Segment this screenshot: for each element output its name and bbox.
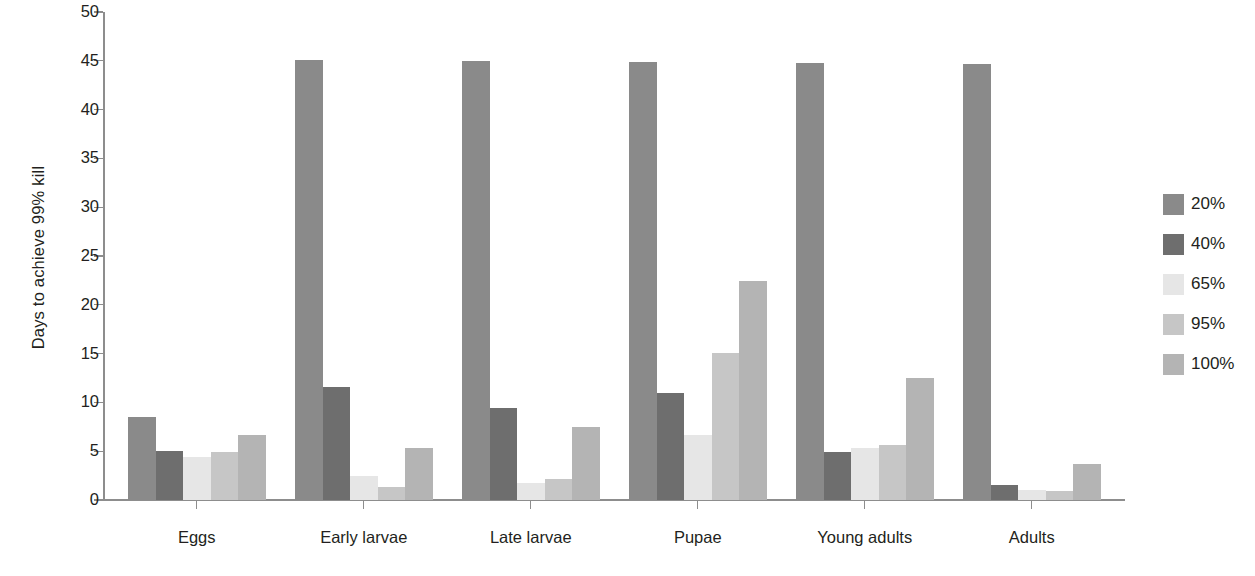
legend-swatch-icon — [1163, 274, 1184, 295]
bar — [128, 417, 156, 500]
legend-swatch-icon — [1163, 194, 1184, 215]
bar — [405, 448, 433, 500]
bar — [1073, 464, 1101, 499]
bar — [572, 427, 600, 499]
bar — [238, 435, 266, 499]
bar — [879, 445, 907, 500]
bar — [1046, 491, 1074, 500]
bar — [323, 387, 351, 499]
y-axis-title: Days to achieve 99% kill — [29, 108, 48, 408]
bar — [490, 408, 518, 500]
y-axis-tick-label: 15 — [59, 345, 99, 362]
legend-swatch-icon — [1163, 354, 1184, 375]
bar — [657, 393, 685, 499]
bar-group — [963, 12, 1101, 500]
x-axis-tick — [530, 500, 531, 509]
bar — [462, 61, 490, 499]
bar — [295, 60, 323, 499]
x-axis-category-label: Pupae — [608, 528, 788, 547]
bar — [183, 457, 211, 500]
x-axis-tick — [1031, 500, 1032, 509]
y-axis-tick-label: 45 — [59, 52, 99, 69]
x-axis-tick — [363, 500, 364, 509]
bar — [684, 435, 712, 499]
bar — [991, 485, 1019, 500]
legend-swatch-icon — [1163, 234, 1184, 255]
x-axis-tick — [864, 500, 865, 509]
x-axis-tick — [697, 500, 698, 509]
bar-group — [128, 12, 266, 500]
y-axis-tick-label: 0 — [59, 491, 99, 508]
bar — [350, 476, 378, 499]
bar — [629, 62, 657, 499]
x-axis-category-label: Adults — [942, 528, 1122, 547]
bar-group — [629, 12, 767, 500]
bar-chart: Days to achieve 99% kill 051015202530354… — [0, 0, 1255, 576]
legend-item-label: 20% — [1191, 192, 1225, 216]
bar — [796, 63, 824, 499]
bar — [156, 451, 184, 500]
x-axis-category-label: Late larvae — [441, 528, 621, 547]
y-axis-tick-label: 20 — [59, 296, 99, 313]
plot-area: 05101520253035404550EggsEarly larvaeLate… — [103, 12, 1125, 500]
bar — [824, 452, 852, 500]
legend-item-label: 65% — [1191, 272, 1225, 296]
y-axis-tick-label: 10 — [59, 393, 99, 410]
y-axis-tick-label: 5 — [59, 442, 99, 459]
legend-item-label: 100% — [1191, 352, 1234, 376]
legend-item-label: 40% — [1191, 232, 1225, 256]
y-axis-tick-label: 30 — [59, 198, 99, 215]
bar — [378, 487, 406, 500]
bar — [906, 378, 934, 499]
y-axis-tick-label: 40 — [59, 101, 99, 118]
bar — [545, 479, 573, 499]
x-axis-category-label: Eggs — [107, 528, 287, 547]
x-axis-tick — [196, 500, 197, 509]
bar — [517, 483, 545, 500]
bar — [963, 64, 991, 499]
bar-group — [796, 12, 934, 500]
bar-group — [295, 12, 433, 500]
bar — [1018, 490, 1046, 500]
y-axis-tick-label: 50 — [59, 3, 99, 20]
x-axis-category-label: Early larvae — [274, 528, 454, 547]
bar — [739, 281, 767, 500]
bar — [851, 448, 879, 500]
y-axis-tick-label: 25 — [59, 247, 99, 264]
x-axis-category-label: Young adults — [775, 528, 955, 547]
bar-group — [462, 12, 600, 500]
y-axis-line — [103, 12, 105, 500]
legend-item-label: 95% — [1191, 312, 1225, 336]
bar — [712, 353, 740, 499]
y-axis-tick-label: 35 — [59, 149, 99, 166]
bar — [211, 452, 239, 500]
legend-swatch-icon — [1163, 314, 1184, 335]
